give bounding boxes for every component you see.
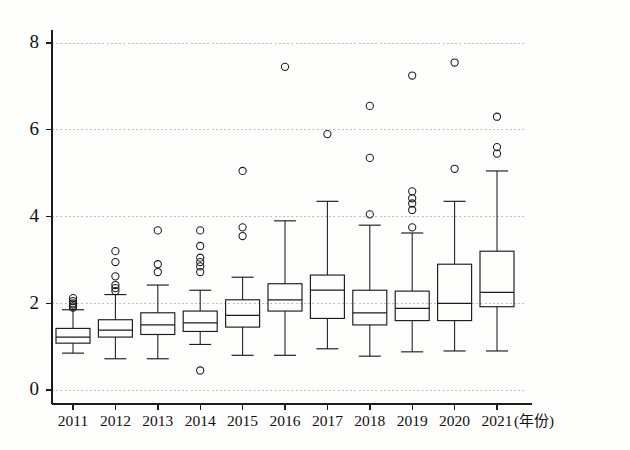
x-tick-label-2016: 2016 xyxy=(270,412,301,429)
outlier-2020-1 xyxy=(451,59,458,66)
x-tick-label-2015: 2015 xyxy=(227,412,258,429)
outlier-2018-1 xyxy=(366,154,373,161)
box-2019 xyxy=(395,72,429,352)
outlier-2015-0 xyxy=(239,232,246,239)
box-2016 xyxy=(268,63,302,355)
box-2020 xyxy=(438,59,472,351)
box-iqr-2021 xyxy=(480,251,514,307)
box-iqr-2015 xyxy=(226,300,260,327)
box-iqr-2012 xyxy=(98,320,132,337)
y-tick-label-0: 0 xyxy=(30,378,40,399)
outlier-2018-2 xyxy=(366,102,373,109)
outlier-2013-1 xyxy=(154,261,161,268)
y-tick-label-6: 6 xyxy=(30,118,40,139)
outlier-2017-0 xyxy=(324,130,331,137)
outlier-2012-4 xyxy=(112,258,119,265)
x-axis-tick-labels: 2011201220132014201520162017201820192020… xyxy=(58,412,513,429)
box-iqr-2019 xyxy=(395,291,429,320)
outlier-2014-0 xyxy=(197,367,204,374)
x-tick-label-2021: 2021 xyxy=(482,412,513,429)
outlier-2015-2 xyxy=(239,167,246,174)
box-2018 xyxy=(353,102,387,356)
box-iqr-2018 xyxy=(353,290,387,325)
y-tick-label-4: 4 xyxy=(30,205,40,226)
box-iqr-2017 xyxy=(310,275,344,318)
outlier-2019-0 xyxy=(409,224,416,231)
x-tick-label-2011: 2011 xyxy=(58,412,88,429)
x-axis-ticks xyxy=(73,404,497,410)
x-tick-label-2012: 2012 xyxy=(100,412,131,429)
box-2014 xyxy=(183,227,217,374)
box-iqr-2020 xyxy=(438,264,472,320)
outlier-2012-5 xyxy=(112,248,119,255)
outlier-2012-3 xyxy=(112,273,119,280)
outlier-2013-0 xyxy=(154,268,161,275)
outlier-2015-1 xyxy=(239,224,246,231)
gridlines xyxy=(52,43,527,390)
outlier-2014-6 xyxy=(197,227,204,234)
x-tick-label-2013: 2013 xyxy=(142,412,173,429)
box-iqr-2016 xyxy=(268,284,302,311)
outlier-2019-5 xyxy=(409,72,416,79)
x-tick-label-2017: 2017 xyxy=(312,412,343,429)
outlier-2018-0 xyxy=(366,211,373,218)
box-2015 xyxy=(226,167,260,355)
outlier-2016-0 xyxy=(281,63,288,70)
y-tick-label-8: 8 xyxy=(30,31,40,52)
outlier-2014-5 xyxy=(197,242,204,249)
x-tick-label-2020: 2020 xyxy=(439,412,470,429)
outlier-2020-0 xyxy=(451,165,458,172)
axes xyxy=(52,30,532,404)
box-2013 xyxy=(141,227,175,359)
box-plot-chart: 02468 2011201220132014201520162017201820… xyxy=(0,0,630,450)
box-2017 xyxy=(310,130,344,348)
y-axis-tick-labels: 02468 xyxy=(30,31,40,399)
y-tick-label-2: 2 xyxy=(30,292,40,313)
plot-area: 02468 2011201220132014201520162017201820… xyxy=(0,0,630,450)
outlier-2019-4 xyxy=(409,188,416,195)
box-iqr-2011 xyxy=(56,328,90,343)
box-2021 xyxy=(480,113,514,351)
x-tick-label-2018: 2018 xyxy=(354,412,385,429)
x-axis-unit-label: (年份) xyxy=(514,413,554,430)
outlier-2014-4 xyxy=(197,254,204,261)
x-axis-unit-text: (年份) xyxy=(514,413,554,430)
y-axis-ticks xyxy=(46,43,52,390)
outlier-2019-3 xyxy=(409,195,416,202)
x-tick-label-2014: 2014 xyxy=(185,412,216,429)
outlier-2021-2 xyxy=(493,113,500,120)
x-tick-label-2019: 2019 xyxy=(397,412,428,429)
outlier-2013-2 xyxy=(154,227,161,234)
box-iqr-2014 xyxy=(183,311,217,331)
box-iqr-2013 xyxy=(141,313,175,335)
